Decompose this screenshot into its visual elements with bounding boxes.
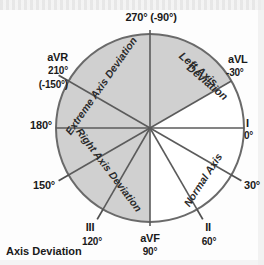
label-270-degrees: 270° (-90°) <box>106 12 196 24</box>
label-I-degrees: 0° <box>244 131 253 142</box>
label-aVR-degrees-alt: (-150°) <box>0 80 68 91</box>
label-aVR-lead: aVR <box>6 52 68 64</box>
tick-150-mark <box>59 175 69 181</box>
tick-30-mark <box>231 175 241 181</box>
label-II-degrees: 60° <box>188 237 230 248</box>
label-III-lead: III <box>70 222 110 234</box>
label-aVR-degrees: 210° <box>6 66 68 77</box>
label-aVF-degrees: 90° <box>128 247 172 258</box>
label-30-degrees: 30° <box>244 180 260 192</box>
label-I-lead: I <box>246 118 249 130</box>
figure-root: Left Axis Deviation Extreme Axis Deviati… <box>0 0 264 265</box>
label-aVL-lead: aVL <box>228 54 248 66</box>
label-II-lead: II <box>190 222 226 234</box>
tick-120-mark <box>97 209 103 219</box>
label-150-degrees: 150° <box>0 180 55 192</box>
label-aVF-lead: aVF <box>128 233 172 245</box>
label-180-degrees: 180° <box>0 120 52 132</box>
tick-60-mark <box>197 209 203 219</box>
label-aVL-degrees: -30° <box>226 68 244 79</box>
figure-caption: Axis Deviation <box>6 245 82 257</box>
